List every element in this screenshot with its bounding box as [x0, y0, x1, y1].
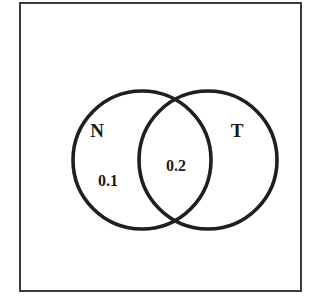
universal-set-box: [20, 3, 301, 291]
venn-diagram-figure: N T 0.1 0.2: [0, 0, 319, 302]
set-label-n: N: [90, 120, 104, 141]
region-value-intersection: 0.2: [166, 157, 186, 174]
set-label-t: T: [231, 120, 244, 141]
venn-diagram-canvas: N T 0.1 0.2: [0, 0, 319, 302]
region-value-n-only: 0.1: [98, 172, 118, 189]
